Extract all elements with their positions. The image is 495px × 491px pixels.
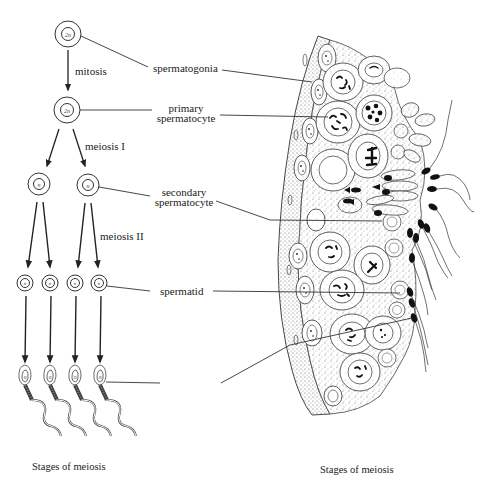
label-meiosis-2: meiosis II bbox=[100, 231, 144, 242]
label-mitosis: mitosis bbox=[75, 66, 107, 77]
ploidy-2n: 2n bbox=[65, 32, 71, 38]
leader-sperm-right bbox=[221, 345, 290, 383]
svg-text:n: n bbox=[98, 281, 101, 286]
svg-text:n: n bbox=[23, 374, 26, 380]
meiosis1-arrow-left bbox=[47, 129, 59, 166]
caption-left: Stages of meiosis bbox=[32, 461, 106, 472]
svg-text:n: n bbox=[49, 281, 52, 286]
svg-text:n: n bbox=[73, 374, 76, 380]
leader-spermatid-left bbox=[107, 286, 150, 291]
svg-text:n: n bbox=[98, 374, 101, 380]
meiosis1-arrow-right bbox=[73, 129, 85, 166]
tubule-section bbox=[278, 36, 474, 415]
label-spermatogonia: spermatogonia bbox=[153, 63, 218, 74]
leader-sperm-left bbox=[106, 382, 160, 383]
leader-secondary-right bbox=[216, 201, 270, 220]
svg-text:n: n bbox=[48, 374, 51, 380]
caption-right: Stages of meiosis bbox=[320, 464, 394, 475]
leader-spermatogonia-right bbox=[222, 70, 312, 82]
leader-secondary-left bbox=[99, 187, 150, 196]
svg-text:n: n bbox=[24, 281, 27, 286]
leader-spermatogonia-left bbox=[81, 36, 148, 67]
svg-text:n: n bbox=[38, 182, 41, 188]
svg-text:n: n bbox=[74, 281, 77, 286]
svg-text:n: n bbox=[87, 183, 90, 189]
sperm-cells: n n n n bbox=[19, 365, 136, 436]
svg-text:2n: 2n bbox=[64, 108, 70, 114]
label-meiosis-1: meiosis I bbox=[85, 141, 125, 152]
label-spermatid: spermatid bbox=[160, 286, 203, 297]
label-secondary-line2: spermatocyte bbox=[148, 197, 220, 208]
label-primary-line2: spermatocyte bbox=[150, 113, 222, 124]
